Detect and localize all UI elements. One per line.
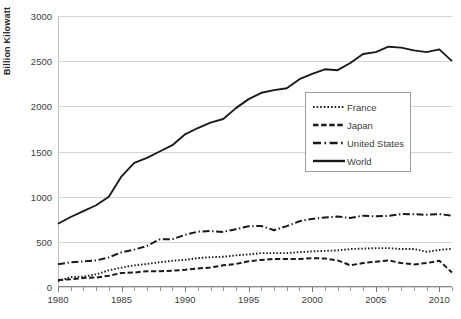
x-minor-tick (452, 287, 453, 291)
x-minor-tick (198, 287, 199, 291)
chart-legend: France Japan United States World (305, 92, 411, 172)
x-minor-tick (401, 287, 402, 291)
x-minor-tick (414, 287, 415, 291)
y-tick-label: 1000 (10, 191, 52, 202)
x-minor-tick (363, 287, 364, 291)
x-major-tick (122, 287, 123, 292)
x-minor-tick (109, 287, 110, 291)
x-minor-tick (287, 287, 288, 291)
x-minor-tick (388, 287, 389, 291)
line-chart: Billion Kilowatt 05001000150020002500300… (0, 0, 461, 319)
y-tick-label: 2500 (10, 56, 52, 67)
x-minor-tick (134, 287, 135, 291)
x-minor-tick (325, 287, 326, 291)
gridline (58, 287, 452, 288)
x-major-tick (439, 287, 440, 292)
x-tick-label: 1985 (99, 294, 145, 305)
legend-item-world: World (306, 152, 410, 170)
solid-line-key (312, 155, 346, 167)
x-major-tick (185, 287, 186, 292)
x-tick-label: 1980 (35, 294, 81, 305)
x-minor-tick (147, 287, 148, 291)
x-major-tick (58, 287, 59, 292)
x-tick-label: 1995 (226, 294, 272, 305)
x-minor-tick (211, 287, 212, 291)
x-minor-tick (83, 287, 84, 291)
legend-label-world: World (347, 156, 372, 167)
x-minor-tick (236, 287, 237, 291)
x-minor-tick (223, 287, 224, 291)
x-major-tick (312, 287, 313, 292)
dotted-line-key (312, 101, 346, 113)
series-line-japan (58, 258, 452, 280)
dash-dot-line-key (312, 137, 346, 149)
x-minor-tick (274, 287, 275, 291)
y-tick-label: 3000 (10, 11, 52, 22)
y-tick-label: 2000 (10, 101, 52, 112)
x-major-tick (376, 287, 377, 292)
y-tick-label: 0 (10, 282, 52, 293)
y-tick-label: 1500 (10, 146, 52, 157)
x-minor-tick (96, 287, 97, 291)
dashed-line-key (312, 119, 346, 131)
x-minor-tick (338, 287, 339, 291)
x-minor-tick (299, 287, 300, 291)
x-tick-label: 1990 (162, 294, 208, 305)
legend-item-france: France (306, 98, 410, 116)
x-tick-label: 2010 (416, 294, 461, 305)
legend-label-france: France (347, 102, 377, 113)
x-minor-tick (261, 287, 262, 291)
x-minor-tick (427, 287, 428, 291)
x-minor-tick (71, 287, 72, 291)
y-tick-label: 500 (10, 236, 52, 247)
x-tick-label: 2005 (353, 294, 399, 305)
legend-label-united-states: United States (347, 138, 404, 149)
x-minor-tick (172, 287, 173, 291)
x-minor-tick (160, 287, 161, 291)
series-line-united-states (58, 214, 452, 264)
legend-item-japan: Japan (306, 116, 410, 134)
legend-item-united-states: United States (306, 134, 410, 152)
x-minor-tick (350, 287, 351, 291)
x-tick-label: 2000 (289, 294, 335, 305)
x-major-tick (249, 287, 250, 292)
legend-label-japan: Japan (347, 120, 373, 131)
